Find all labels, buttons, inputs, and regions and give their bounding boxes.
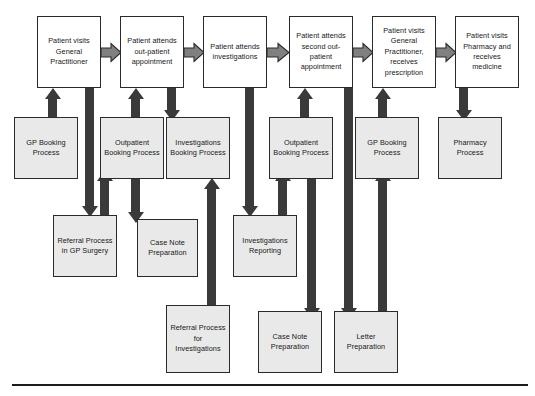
node-pharmacy-process[interactable]: Pharmacy Process bbox=[438, 117, 502, 179]
bottom-divider bbox=[12, 384, 528, 386]
node-investigations[interactable]: Patient attends investigations bbox=[203, 16, 267, 88]
node-investigations-booking[interactable]: Investigations Booking Process bbox=[166, 117, 230, 179]
node-label: Outpatient Booking Process bbox=[273, 138, 329, 159]
node-label: GP Booking Process bbox=[18, 138, 74, 159]
node-label: Case Note Preparation bbox=[262, 332, 318, 353]
node-label: Patient attends second out-patient appoi… bbox=[293, 31, 349, 72]
connector-reporting-to-outpatient-booking-2 bbox=[278, 178, 287, 218]
arrowhead-up-outpatient-2 bbox=[297, 88, 313, 99]
connector-outpatient-booking-2-to-case-note-2 bbox=[307, 178, 316, 310]
node-label: Investigations Booking Process bbox=[170, 138, 226, 159]
connector-gp-visit-to-referral-gp bbox=[85, 88, 94, 208]
connector-outpatient-1-to-investigations-booking bbox=[167, 88, 176, 112]
chevron-arrow-icon-5 bbox=[435, 42, 457, 63]
node-pharmacy[interactable]: Patient visits Pharmacy and receives med… bbox=[455, 16, 519, 88]
node-letter-prep[interactable]: Letter Preparation bbox=[334, 311, 398, 373]
node-label: GP Booking Process bbox=[359, 138, 415, 159]
node-referral-investigations[interactable]: Referral Process for Investigations bbox=[166, 305, 230, 373]
connector-outpatient-booking-to-case-note-1 bbox=[131, 178, 140, 214]
node-outpatient-2[interactable]: Patient attends second out-patient appoi… bbox=[289, 16, 353, 88]
arrowhead-up-investigations-booking-2 bbox=[204, 178, 220, 189]
connector-referral-gp-to-outpatient-booking bbox=[100, 178, 109, 218]
node-label: Referral Process in GP Surgery bbox=[57, 236, 113, 257]
chevron-arrow-icon-2 bbox=[183, 42, 205, 63]
node-label: Patient attends investigations bbox=[207, 42, 263, 63]
node-label: Outpatient Booking Process bbox=[104, 138, 160, 159]
node-label: Patient visits General Practitioner bbox=[41, 36, 97, 67]
node-label: Patient attends out-patient appointment bbox=[124, 36, 180, 67]
node-outpatient-booking-2[interactable]: Outpatient Booking Process bbox=[269, 117, 333, 179]
patient-pathway-flowchart: Patient visits General Practitioner Pati… bbox=[0, 0, 535, 396]
node-label: Pharmacy Process bbox=[442, 138, 498, 159]
node-case-note-prep-2[interactable]: Case Note Preparation bbox=[258, 311, 322, 373]
arrowhead-up-gp-visit bbox=[45, 88, 61, 99]
arrowhead-up-gp-prescription bbox=[375, 88, 391, 99]
chevron-arrow-icon-4 bbox=[352, 42, 374, 63]
arrowhead-up-outpatient-1 bbox=[128, 88, 144, 99]
connector-pharmacy-step-to-pharmacy-process bbox=[459, 88, 468, 112]
node-outpatient-booking-1[interactable]: Outpatient Booking Process bbox=[100, 117, 164, 179]
node-label: Patient visits General Practitioner, rec… bbox=[376, 26, 432, 78]
node-case-note-prep-1[interactable]: Case Note Preparation bbox=[137, 219, 198, 277]
node-label: Case Note Preparation bbox=[141, 238, 194, 259]
chevron-arrow-icon-1 bbox=[100, 42, 122, 63]
node-label: Patient visits Pharmacy and receives med… bbox=[459, 31, 515, 72]
connector-outpatient-2-to-letter-prep bbox=[344, 88, 353, 310]
node-label: Letter Preparation bbox=[338, 332, 394, 353]
connector-referral-inv-to-investigations-booking bbox=[207, 186, 216, 314]
node-gp-visit[interactable]: Patient visits General Practitioner bbox=[37, 16, 101, 88]
node-label: Investigations Reporting bbox=[237, 236, 293, 257]
connector-investigations-to-reporting bbox=[245, 88, 254, 208]
node-outpatient-1[interactable]: Patient attends out-patient appointment bbox=[120, 16, 184, 88]
node-gp-prescription[interactable]: Patient visits General Practitioner, rec… bbox=[372, 16, 436, 88]
chevron-arrow-icon-3 bbox=[266, 42, 290, 63]
node-investigations-reporting[interactable]: Investigations Reporting bbox=[233, 215, 297, 277]
node-gp-booking-2[interactable]: GP Booking Process bbox=[355, 117, 419, 179]
node-referral-gp-surgery[interactable]: Referral Process in GP Surgery bbox=[53, 215, 117, 277]
node-label: Referral Process for Investigations bbox=[170, 323, 226, 354]
node-gp-booking-1[interactable]: GP Booking Process bbox=[14, 117, 78, 179]
